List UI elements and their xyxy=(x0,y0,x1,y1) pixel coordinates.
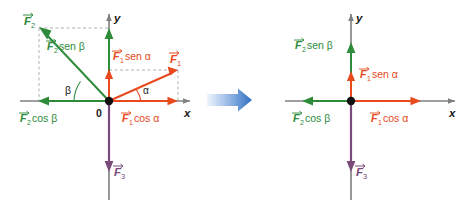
x-axis-label-left: x xyxy=(183,107,191,119)
component-label-F1-cos-alpha-left: F 1 cos α xyxy=(121,111,159,126)
component-label-F1-cos-alpha-text: cos α xyxy=(134,112,159,124)
component-label-F2-cos-beta-sub: 2 xyxy=(27,119,31,126)
component-label-F2-sen-beta-right: F 2 sen β xyxy=(294,38,333,53)
component-label-F1-sen-alpha-head-right: F xyxy=(360,68,367,80)
origin-dot-left xyxy=(105,97,113,105)
component-label-F1-sen-alpha-text-right: sen α xyxy=(372,68,398,80)
component-label-F2-cos-beta-left: F 2 cos β xyxy=(19,111,57,126)
y-axis-label-right: y xyxy=(355,12,363,24)
origin-label-left: 0 xyxy=(96,107,102,119)
component-label-F2-cos-beta-text-right: cos β xyxy=(305,112,330,124)
component-label-F1-cos-alpha-head-right: F xyxy=(371,112,378,124)
component-label-F1-sen-alpha-sub-right: 1 xyxy=(367,75,371,82)
vector-label-F1-sub: 1 xyxy=(177,59,181,68)
component-label-F2-sen-beta-head: F xyxy=(47,40,54,52)
vector-label-F2-sub: 2 xyxy=(31,21,35,30)
component-label-F1-sen-alpha-right: F 1 sen α xyxy=(359,67,398,82)
component-label-F2-cos-beta-head: F xyxy=(20,112,27,124)
component-label-F1-cos-alpha-text-right: cos α xyxy=(383,112,408,124)
component-label-F2-cos-beta-sub-right: 2 xyxy=(300,119,304,126)
component-label-F2-sen-beta-sub-right: 2 xyxy=(302,46,306,53)
component-label-F1-cos-alpha-right: F 1 cos α xyxy=(370,111,408,126)
component-label-F2-cos-beta-head-right: F xyxy=(293,112,300,124)
angle-label-beta: β xyxy=(65,84,71,96)
component-label-F1-sen-alpha-head: F xyxy=(113,50,120,62)
component-label-F2-sen-beta-left: F 2 sen β xyxy=(46,39,85,54)
x-axis-label-right: x xyxy=(448,107,456,119)
y-axis-label-left: y xyxy=(113,12,121,24)
component-label-F2-sen-beta-head-right: F xyxy=(295,39,302,51)
origin-dot-right xyxy=(347,97,355,105)
component-label-F2-sen-beta-text: sen β xyxy=(59,40,85,52)
component-label-F1-cos-alpha-head: F xyxy=(122,112,129,124)
vector-label-F3-sub: 3 xyxy=(121,172,125,181)
figure-canvas: x y 0 β α F 2 F 1 F 3 F 2 sen β xyxy=(0,0,470,210)
component-label-F1-sen-alpha-sub: 1 xyxy=(120,57,124,64)
component-label-F1-sen-alpha-left: F 1 sen α xyxy=(112,49,151,64)
component-label-F2-cos-beta-right: F 2 cos β xyxy=(292,111,330,126)
component-label-F3-sub-right: 3 xyxy=(363,172,367,181)
component-label-F1-sen-alpha-text: sen α xyxy=(125,50,151,62)
component-label-F2-sen-beta-sub: 2 xyxy=(54,47,58,54)
component-label-F2-cos-beta-text: cos β xyxy=(32,112,57,124)
component-label-F1-cos-alpha-sub-right: 1 xyxy=(378,119,382,126)
angle-label-alpha: α xyxy=(143,85,149,96)
component-label-F1-cos-alpha-sub: 1 xyxy=(129,119,133,126)
component-label-F2-sen-beta-text-right: sen β xyxy=(307,39,333,51)
